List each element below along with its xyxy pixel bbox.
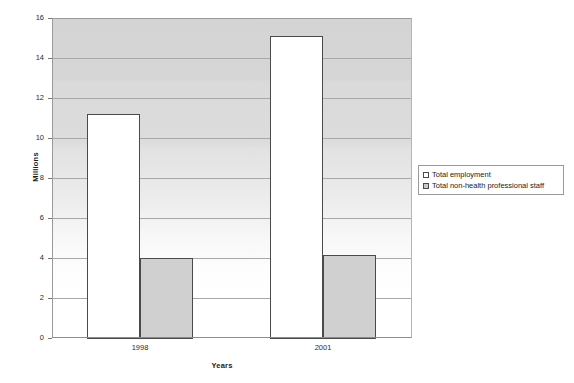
x-axis-title: Years	[172, 361, 272, 370]
bar-1998-total-employment	[87, 114, 140, 339]
chart-legend: Total employment Total non-health profes…	[418, 165, 564, 195]
gridline-16	[52, 18, 412, 19]
xtick-label-2001: 2001	[293, 343, 353, 352]
bar-1998-total-non-health-professional-staff	[140, 258, 193, 339]
legend-item-total-employment[interactable]: Total employment	[423, 169, 560, 180]
y-axis-title: Millions	[31, 137, 45, 197]
ytick-mark-2	[48, 298, 52, 299]
ytick-mark-4	[48, 258, 52, 259]
gridline-12	[52, 98, 412, 99]
ytick-label-4: 4	[22, 254, 44, 262]
bar-chart: 16 14 12 10 8 6 4 2 0 1998 2001 Millions…	[0, 0, 574, 383]
ytick-mark-14	[48, 58, 52, 59]
bar-2001-total-employment	[270, 36, 323, 339]
legend-label-total-non-health-professional-staff: Total non-health professional staff	[432, 181, 544, 190]
ytick-mark-10	[48, 138, 52, 139]
ytick-label-16: 16	[22, 14, 44, 22]
xtick-label-1998: 1998	[110, 343, 170, 352]
ytick-label-6: 6	[22, 214, 44, 222]
ytick-label-0: 0	[22, 334, 44, 342]
ytick-mark-16	[48, 18, 52, 19]
ytick-mark-0	[48, 338, 52, 339]
legend-label-total-employment: Total employment	[432, 170, 491, 179]
gridline-14	[52, 58, 412, 59]
legend-swatch-icon-total-non-health-professional-staff	[423, 183, 429, 189]
ytick-mark-6	[48, 218, 52, 219]
bar-2001-total-non-health-professional-staff	[323, 255, 376, 339]
ytick-label-2: 2	[22, 294, 44, 302]
ytick-mark-12	[48, 98, 52, 99]
ytick-label-12: 12	[22, 94, 44, 102]
legend-item-total-non-health-professional-staff[interactable]: Total non-health professional staff	[423, 180, 560, 191]
legend-swatch-icon-total-employment	[423, 172, 429, 178]
ytick-label-14: 14	[22, 54, 44, 62]
ytick-mark-8	[48, 178, 52, 179]
